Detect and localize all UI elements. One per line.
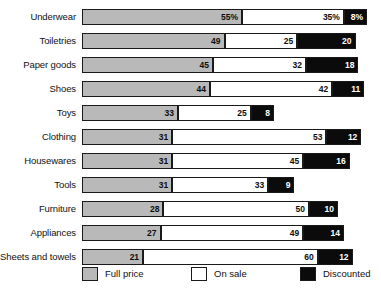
bar-segment-value: 55% bbox=[221, 10, 238, 24]
bar-segment-value: 60 bbox=[304, 250, 313, 264]
bar-segment-value: 45 bbox=[290, 154, 299, 168]
bar-track: 315312 bbox=[82, 129, 373, 145]
category-label: Sheets and towels bbox=[0, 248, 76, 266]
bar-row: Appliances274914 bbox=[0, 224, 381, 248]
bar-segment-on-sale: 45 bbox=[172, 153, 303, 169]
bar-row: Furniture285010 bbox=[0, 200, 381, 224]
bar-segment-value: 18 bbox=[345, 58, 354, 72]
category-label: Appliances bbox=[0, 224, 76, 242]
bar-segment-discounted: 14 bbox=[303, 225, 344, 241]
chart-plot-area: Underwear55%35%8%Toiletries492520Paper g… bbox=[0, 8, 381, 272]
bar-segment-value: 28 bbox=[150, 202, 159, 216]
bar-segment-value: 31 bbox=[159, 154, 168, 168]
category-label: Tools bbox=[0, 176, 76, 194]
bar-track: 216012 bbox=[82, 249, 373, 265]
bar-segment-discounted: 16 bbox=[303, 153, 350, 169]
legend-swatch-icon bbox=[191, 267, 207, 281]
bar-segment-value: 33 bbox=[165, 106, 174, 120]
bar-segment-on-sale: 50 bbox=[163, 201, 309, 217]
category-label: Clothing bbox=[0, 128, 76, 146]
legend-label: On sale bbox=[214, 267, 247, 281]
legend-swatch-icon bbox=[300, 267, 316, 281]
bar-segment-on-sale: 42 bbox=[210, 81, 332, 97]
bar-segment-full-price: 21 bbox=[82, 249, 143, 265]
bar-segment-full-price: 31 bbox=[82, 129, 172, 145]
stacked-bar-chart: Underwear55%35%8%Toiletries492520Paper g… bbox=[0, 0, 381, 292]
bar-segment-value: 45 bbox=[199, 58, 208, 72]
bar-track: 33258 bbox=[82, 105, 373, 121]
category-label: Furniture bbox=[0, 200, 76, 218]
bar-segment-value: 50 bbox=[296, 202, 305, 216]
bar-segment-discounted: 8 bbox=[251, 105, 274, 121]
legend-item-full[interactable]: Full price bbox=[82, 266, 144, 282]
bar-segment-on-sale: 25 bbox=[225, 33, 298, 49]
legend-item-disc[interactable]: Discounted bbox=[300, 266, 371, 282]
category-label: Underwear bbox=[0, 8, 76, 26]
bar-segment-value: 27 bbox=[147, 226, 156, 240]
bar-segment-value: 12 bbox=[339, 250, 348, 264]
bar-segment-value: 53 bbox=[313, 130, 322, 144]
bar-segment-on-sale: 32 bbox=[213, 57, 306, 73]
bar-segment-discounted: 12 bbox=[326, 129, 361, 145]
bar-segment-discounted: 11 bbox=[332, 81, 364, 97]
bar-segment-value: 49 bbox=[211, 34, 220, 48]
bar-row: Shoes444211 bbox=[0, 80, 381, 104]
bar-segment-on-sale: 49 bbox=[161, 225, 304, 241]
category-label: Shoes bbox=[0, 80, 76, 98]
bar-row: Toys33258 bbox=[0, 104, 381, 128]
bar-segment-value: 32 bbox=[293, 58, 302, 72]
bar-segment-discounted: 18 bbox=[306, 57, 358, 73]
bar-row: Housewares314516 bbox=[0, 152, 381, 176]
bar-segment-on-sale: 53 bbox=[172, 129, 326, 145]
bar-segment-full-price: 28 bbox=[82, 201, 163, 217]
bar-segment-discounted: 12 bbox=[318, 249, 353, 265]
bar-segment-value: 8% bbox=[351, 10, 363, 24]
legend-label: Full price bbox=[105, 267, 144, 281]
bar-row: Tools31339 bbox=[0, 176, 381, 200]
bar-segment-on-sale: 33 bbox=[172, 177, 268, 193]
chart-legend: Full priceOn saleDiscounted bbox=[0, 266, 381, 286]
bar-segment-discounted: 10 bbox=[309, 201, 338, 217]
bar-row: Clothing315312 bbox=[0, 128, 381, 152]
bar-segment-full-price: 33 bbox=[82, 105, 178, 121]
bar-segment-value: 25 bbox=[237, 106, 246, 120]
bar-track: 285010 bbox=[82, 201, 373, 217]
bar-row: Paper goods453218 bbox=[0, 56, 381, 80]
bar-segment-value: 14 bbox=[330, 226, 339, 240]
bar-segment-value: 12 bbox=[348, 130, 357, 144]
legend-item-sale[interactable]: On sale bbox=[191, 266, 247, 282]
bar-segment-discounted: 9 bbox=[268, 177, 294, 193]
bar-segment-value: 20 bbox=[342, 34, 351, 48]
bar-row: Underwear55%35%8% bbox=[0, 8, 381, 32]
bar-segment-value: 31 bbox=[159, 130, 168, 144]
bar-track: 31339 bbox=[82, 177, 373, 193]
bar-segment-full-price: 31 bbox=[82, 177, 172, 193]
bar-row: Toiletries492520 bbox=[0, 32, 381, 56]
bar-segment-full-price: 49 bbox=[82, 33, 225, 49]
bar-segment-value: 35% bbox=[323, 10, 340, 24]
bar-segment-value: 25 bbox=[284, 34, 293, 48]
category-label: Toiletries bbox=[0, 32, 76, 50]
bar-segment-value: 8 bbox=[265, 106, 270, 120]
bar-segment-full-price: 55% bbox=[82, 9, 242, 25]
bar-segment-full-price: 31 bbox=[82, 153, 172, 169]
bar-track: 274914 bbox=[82, 225, 373, 241]
bar-segment-value: 16 bbox=[336, 154, 345, 168]
bar-track: 453218 bbox=[82, 57, 373, 73]
bar-segment-value: 10 bbox=[325, 202, 334, 216]
bar-track: 492520 bbox=[82, 33, 373, 49]
bar-segment-value: 44 bbox=[197, 82, 206, 96]
bar-segment-value: 11 bbox=[351, 82, 360, 96]
bar-segment-value: 31 bbox=[159, 178, 168, 192]
bar-segment-value: 21 bbox=[130, 250, 139, 264]
bar-segment-on-sale: 25 bbox=[178, 105, 251, 121]
category-label: Toys bbox=[0, 104, 76, 122]
bar-segment-value: 42 bbox=[319, 82, 328, 96]
bar-segment-value: 33 bbox=[255, 178, 264, 192]
bar-segment-on-sale: 60 bbox=[143, 249, 318, 265]
bar-segment-full-price: 45 bbox=[82, 57, 213, 73]
legend-label: Discounted bbox=[323, 267, 371, 281]
bar-track: 314516 bbox=[82, 153, 373, 169]
bar-segment-full-price: 44 bbox=[82, 81, 210, 97]
legend-swatch-icon bbox=[82, 267, 98, 281]
